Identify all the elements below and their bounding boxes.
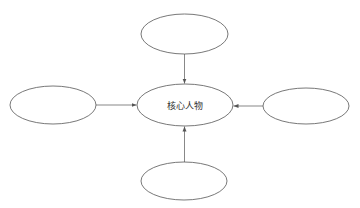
- node-right: [263, 88, 349, 124]
- concept-diagram: 核心人物: [0, 0, 360, 208]
- node-center-label: 核心人物: [167, 100, 203, 111]
- node-left: [10, 86, 96, 124]
- node-top: [141, 14, 228, 54]
- node-bottom: [141, 162, 227, 200]
